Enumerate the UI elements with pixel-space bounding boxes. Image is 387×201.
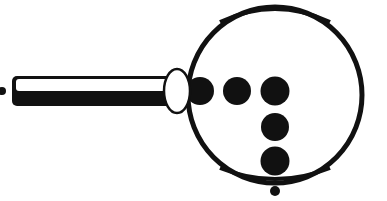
dot-icon (261, 113, 289, 141)
handle-shaft (12, 76, 172, 106)
bottom-end-dot (270, 186, 280, 196)
dot-icon (261, 147, 290, 176)
left-end-dot (0, 87, 6, 95)
ring-thick-top (220, 9, 330, 22)
dot-icon (223, 77, 251, 105)
dot-group (186, 77, 290, 176)
dot-icon (261, 77, 290, 106)
key-diagram (0, 0, 387, 201)
connector-ellipse (164, 69, 190, 113)
